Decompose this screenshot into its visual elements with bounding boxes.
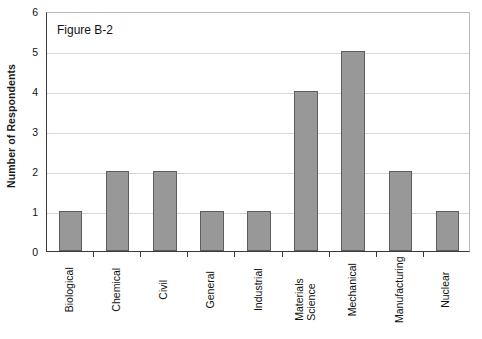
x-axis-tick bbox=[93, 252, 94, 257]
x-axis-tick bbox=[140, 252, 141, 257]
x-axis-category-label-line: Chemical bbox=[110, 268, 122, 312]
bar bbox=[294, 91, 318, 251]
x-axis-category-label-line: Materials bbox=[293, 278, 305, 321]
bar bbox=[247, 211, 271, 251]
x-axis-category-labels: BiologicalChemicalCivilGeneralIndustrial… bbox=[46, 258, 470, 339]
bar bbox=[436, 211, 460, 251]
bar bbox=[200, 211, 224, 251]
x-axis-category-label-line: Science bbox=[305, 278, 317, 321]
gridline bbox=[47, 53, 469, 54]
bar bbox=[153, 171, 177, 251]
y-axis-tick-label: 4 bbox=[32, 86, 38, 98]
x-axis-category-label-line: Manufacturing bbox=[393, 256, 405, 323]
x-axis-tick bbox=[282, 252, 283, 257]
y-axis-tick-label: 1 bbox=[32, 206, 38, 218]
x-axis-category-label-line: Biological bbox=[63, 267, 75, 312]
figure-caption: Figure B-2 bbox=[57, 23, 113, 37]
y-axis-tick-label: 2 bbox=[32, 166, 38, 178]
plot-area: Figure B-2 bbox=[46, 12, 470, 252]
x-axis-category-label-line: Nuclear bbox=[440, 272, 452, 308]
gridline bbox=[47, 93, 469, 94]
x-axis-ticks bbox=[46, 252, 470, 257]
x-axis-tick bbox=[376, 252, 377, 257]
y-axis-tick-label: 3 bbox=[32, 126, 38, 138]
bar bbox=[389, 171, 413, 251]
x-axis-tick bbox=[234, 252, 235, 257]
y-axis-title-container: Number of Respondents bbox=[0, 0, 22, 252]
x-axis-tick bbox=[187, 252, 188, 257]
y-axis-tick-label: 5 bbox=[32, 46, 38, 58]
y-axis-tick-labels: 0123456 bbox=[22, 12, 42, 252]
x-axis-tick bbox=[423, 252, 424, 257]
y-axis-title: Number of Respondents bbox=[5, 64, 17, 188]
x-axis-category-label-line: General bbox=[204, 271, 216, 308]
y-axis-tick-label: 0 bbox=[32, 246, 38, 258]
x-axis-category-label-line: Mechanical bbox=[345, 263, 357, 316]
plot-inner: Figure B-2 bbox=[47, 13, 469, 251]
bar-chart-figure: Number of Respondents 0123456 Figure B-2… bbox=[0, 0, 482, 339]
y-axis-tick-label: 6 bbox=[32, 6, 38, 18]
gridline bbox=[47, 133, 469, 134]
x-axis-category-label-line: Industrial bbox=[251, 268, 263, 311]
bar bbox=[106, 171, 130, 251]
bar bbox=[59, 211, 83, 251]
x-axis-tick bbox=[329, 252, 330, 257]
bar bbox=[341, 51, 365, 251]
x-axis-category-label-line: Civil bbox=[157, 280, 169, 300]
